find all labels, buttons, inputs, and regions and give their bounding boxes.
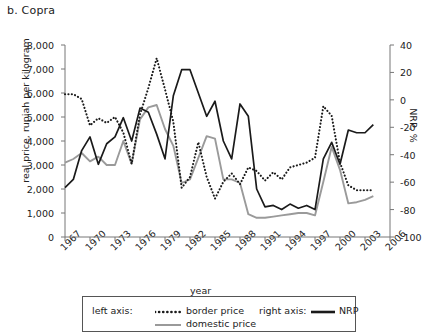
axis-ticks-right bbox=[390, 45, 394, 237]
legend-entry-nrp: NRP bbox=[339, 305, 358, 316]
axis-ticks-left bbox=[61, 45, 65, 237]
axis-lines bbox=[65, 45, 390, 237]
legend-swatch-domestic-price bbox=[155, 322, 181, 328]
legend-right-axis-label: right axis: bbox=[259, 305, 307, 316]
legend-swatch-border-price bbox=[155, 309, 181, 315]
series-line-border-price bbox=[65, 58, 373, 198]
legend-swatch-nrp bbox=[311, 309, 335, 315]
plot-area bbox=[0, 0, 438, 336]
chart-figure: b. Copra real price, rupiah per kilogram… bbox=[0, 0, 438, 336]
legend-entry-border-price: border price bbox=[186, 305, 244, 316]
chart-legend: left axis: border price domestic price r… bbox=[82, 296, 356, 332]
legend-entry-domestic-price: domestic price bbox=[186, 318, 256, 329]
axis-ticks-bottom bbox=[65, 237, 390, 241]
legend-left-axis-label: left axis: bbox=[92, 305, 133, 316]
